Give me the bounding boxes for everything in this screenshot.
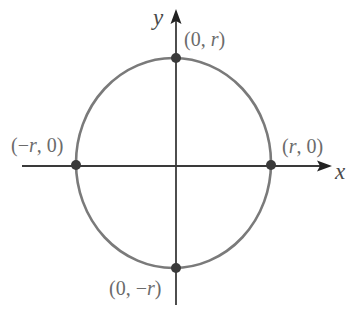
point-left <box>71 160 81 170</box>
point-right <box>266 160 276 170</box>
point-label-bottom-variable: r <box>147 277 155 299</box>
point-label-bottom-open: (0, − <box>109 277 147 299</box>
point-label-left: (−r, 0) <box>11 135 63 155</box>
point-label-left-variable: r <box>29 134 37 156</box>
point-label-right-close: , 0) <box>296 135 323 157</box>
circle-diagram: y x (0, r) (r, 0) (−r, 0) (0, −r) <box>0 0 353 313</box>
point-label-bottom: (0, −r) <box>109 278 161 298</box>
point-label-top-open: (0, <box>184 28 211 50</box>
point-label-left-close: , 0) <box>37 134 64 156</box>
point-label-right-open: ( <box>282 135 289 157</box>
point-label-top: (0, r) <box>184 29 225 49</box>
point-top <box>171 53 181 63</box>
circle-curve <box>76 58 271 268</box>
point-bottom <box>171 263 181 273</box>
y-axis-label: y <box>153 6 163 29</box>
point-label-right: (r, 0) <box>282 136 323 156</box>
point-label-bottom-close: ) <box>155 277 162 299</box>
point-label-top-close: ) <box>218 28 225 50</box>
x-axis-label: x <box>335 160 345 183</box>
point-label-left-open: (− <box>11 134 29 156</box>
